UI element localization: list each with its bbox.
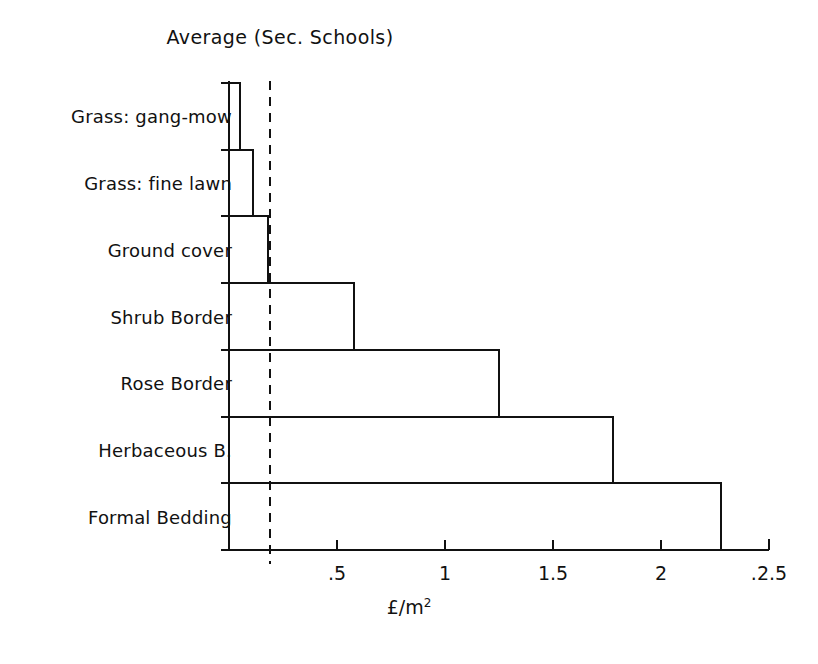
category-label-grass-fine-lawn: Grass: fine lawn <box>84 173 232 194</box>
bar-grass-fine-lawn <box>229 150 253 217</box>
x-axis-title-exponent: 2 <box>424 596 432 610</box>
category-label-formal-bedding: Formal Bedding <box>88 506 232 527</box>
x-tick-label: .2.5 <box>751 562 787 584</box>
category-label-rose-border: Rose Border <box>121 373 232 394</box>
chart-figure: Average (Sec. Schools) Grass: gang-mowGr… <box>0 0 818 664</box>
x-axis-title-base: £/m <box>387 596 424 618</box>
bar-shrub-border <box>229 283 354 350</box>
category-label-grass-gang-mow: Grass: gang-mow <box>71 106 232 127</box>
x-tick-label: 1.5 <box>538 562 568 584</box>
category-label-ground-cover: Ground cover <box>108 239 232 260</box>
x-tick-label: 2 <box>655 562 667 584</box>
bar-herbaceous-b <box>229 417 613 484</box>
category-label-herbaceous-b: Herbaceous B. <box>98 439 232 460</box>
plot-area <box>0 0 818 664</box>
x-axis-title: £/m2 <box>0 596 818 618</box>
bars-group <box>229 83 721 550</box>
bar-ground-cover <box>229 216 268 283</box>
category-label-shrub-border: Shrub Border <box>110 306 232 327</box>
x-tick-label: .5 <box>328 562 346 584</box>
bar-formal-bedding <box>229 483 721 550</box>
x-tick-label: 1 <box>439 562 451 584</box>
